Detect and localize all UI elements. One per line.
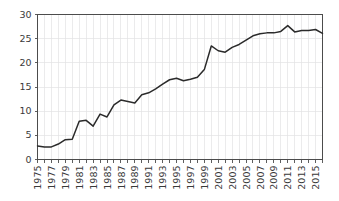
x-tick-label: 1991 xyxy=(143,166,154,190)
x-tick-label: 1979 xyxy=(60,166,71,190)
x-tick-label: 1985 xyxy=(102,166,113,190)
y-axis-tick-labels: 051015202530 xyxy=(19,9,31,165)
x-tick-label: 2011 xyxy=(282,166,293,190)
x-tick-label: 1993 xyxy=(157,166,168,190)
x-tick-label: 2007 xyxy=(255,166,266,190)
y-tick-label: 0 xyxy=(25,154,31,165)
x-tick-label: 1995 xyxy=(171,166,182,190)
x-tick-label: 2001 xyxy=(213,166,224,190)
y-tick-label: 20 xyxy=(19,57,31,68)
x-tick-label: 2005 xyxy=(241,166,252,190)
grid-lines xyxy=(38,15,323,160)
x-tick-label: 1989 xyxy=(129,166,140,190)
y-tick-label: 5 xyxy=(25,129,31,140)
x-tick-label: 1987 xyxy=(116,166,127,190)
x-tick-label: 1983 xyxy=(88,166,99,190)
y-tick-label: 15 xyxy=(19,81,31,92)
x-axis-tick-labels: 1975197719791981198319851987198919911993… xyxy=(32,166,321,190)
x-tick-label: 1975 xyxy=(32,166,43,190)
x-tick-label: 1977 xyxy=(46,166,57,190)
line-chart: 051015202530 197519771979198119831985198… xyxy=(0,0,339,201)
x-tick-label: 2013 xyxy=(296,166,307,190)
y-tick-label: 10 xyxy=(19,105,31,116)
x-tick-label: 1999 xyxy=(199,166,210,190)
data-series xyxy=(38,26,323,147)
chart-axes xyxy=(35,15,323,163)
y-tick-label: 30 xyxy=(19,9,31,20)
series-line xyxy=(38,26,323,147)
x-tick-label: 1981 xyxy=(74,166,85,190)
x-tick-label: 2015 xyxy=(310,166,321,190)
y-tick-label: 25 xyxy=(19,33,31,44)
x-tick-label: 2009 xyxy=(268,166,279,190)
x-tick-label: 1997 xyxy=(185,166,196,190)
chart-container: 051015202530 197519771979198119831985198… xyxy=(0,0,339,201)
x-tick-label: 2003 xyxy=(227,166,238,190)
